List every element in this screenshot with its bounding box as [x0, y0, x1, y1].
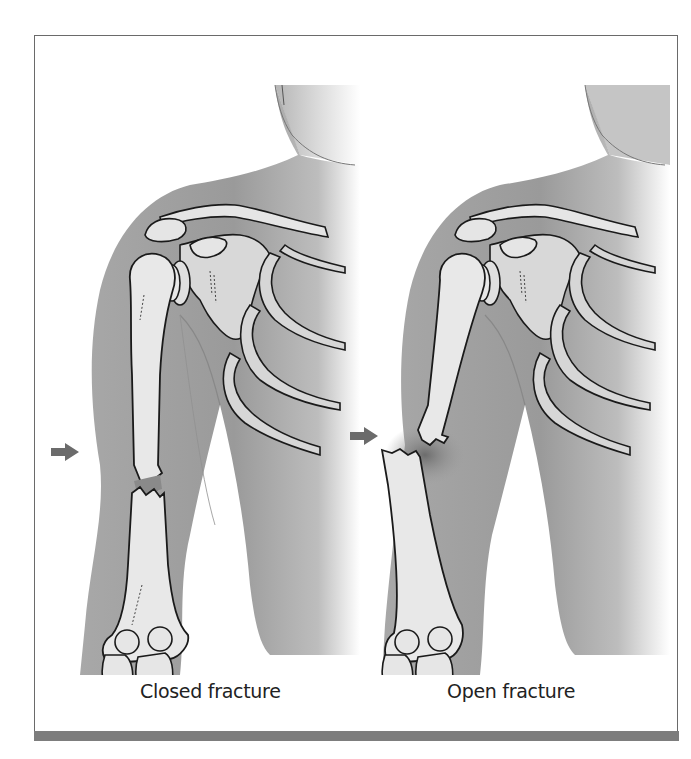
closed-fracture-illustration — [60, 45, 360, 675]
open-fracture-illustration — [370, 45, 670, 675]
closed-fracture-caption: Closed fracture — [140, 680, 281, 702]
arrow-right-icon — [51, 443, 79, 465]
figure-bottom-bar — [34, 731, 679, 741]
open-fracture-caption: Open fracture — [447, 680, 575, 702]
arrow-right-icon — [350, 427, 378, 449]
